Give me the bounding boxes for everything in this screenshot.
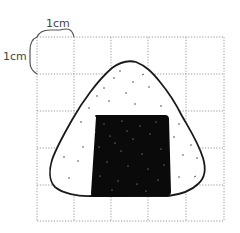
vertical-bracket (30, 37, 37, 74)
vertical-scale-label: 1cm (3, 50, 27, 63)
horizontal-bracket (37, 29, 74, 37)
onigiri-grid-diagram: 1cm 1cm (0, 0, 240, 233)
horizontal-scale-label: 1cm (46, 17, 70, 30)
nori-seaweed (91, 115, 171, 197)
